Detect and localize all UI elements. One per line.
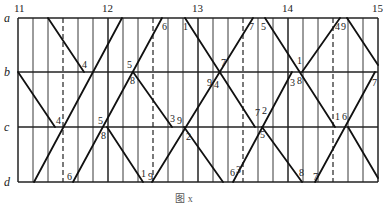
minute-label: 7 (313, 171, 318, 182)
minute-label: 9 (177, 115, 182, 126)
station-label-d: d (4, 175, 11, 189)
figure-caption: 图 x (175, 193, 193, 204)
minute-label: 4 (214, 79, 219, 90)
hour-label-15: 15 (372, 2, 383, 14)
minute-label: 9 (148, 171, 153, 182)
minute-label: 8 (297, 75, 302, 86)
minute-label: 6 (230, 167, 235, 178)
station-label-b: b (4, 65, 10, 79)
minute-label: 5 (260, 129, 265, 140)
hour-label-11: 11 (14, 2, 25, 14)
train-path-down (18, 72, 55, 127)
minute-label: 5 (98, 115, 103, 126)
minute-label: 1 (335, 111, 340, 122)
hour-label-14: 14 (282, 2, 294, 14)
station-label-a: a (4, 11, 10, 25)
minute-label: 3 (236, 164, 241, 175)
hour-label-12: 12 (102, 2, 113, 14)
train-path-down (262, 127, 302, 182)
minute-label: 1 (297, 55, 302, 66)
minute-grid (18, 18, 378, 182)
minute-label: 8 (299, 167, 304, 178)
minute-label: 4 (56, 115, 61, 126)
station-label-c: c (4, 120, 10, 134)
minute-label: 9 (341, 21, 346, 32)
train-path-up (73, 18, 162, 182)
minute-label: 2 (186, 131, 191, 142)
minute-label: 9 (207, 77, 212, 88)
minute-label: 1 (141, 168, 146, 179)
minute-label: 4 (335, 21, 340, 32)
minute-label: 6 (162, 21, 167, 32)
minute-label: 7 (221, 57, 226, 68)
minute-label: 2 (262, 105, 267, 116)
minute-label: 6 (342, 111, 347, 122)
minute-label: 6 (67, 171, 72, 182)
minute-label: 8 (101, 130, 106, 141)
minute-label: 7 (372, 77, 377, 88)
train-path-down (48, 18, 84, 72)
train-path-down (347, 18, 378, 65)
hour-label-13: 13 (192, 2, 204, 14)
minute-label: 1 (183, 21, 188, 32)
hour-labels: 1112131415 (14, 2, 383, 14)
minute-label: 5 (127, 59, 132, 70)
minute-label: 3 (170, 113, 175, 124)
minute-label: 4 (82, 59, 87, 70)
minute-label: 7 (255, 107, 260, 118)
minute-label: 5 (261, 21, 266, 32)
minute-label: 8 (130, 75, 135, 86)
station-labels: abcd (4, 11, 11, 189)
minute-label: 7 (249, 21, 254, 32)
train-operation-diagram: abcd 1112131415 446585863919127947572563… (0, 0, 383, 205)
minute-label: 3 (290, 77, 295, 88)
